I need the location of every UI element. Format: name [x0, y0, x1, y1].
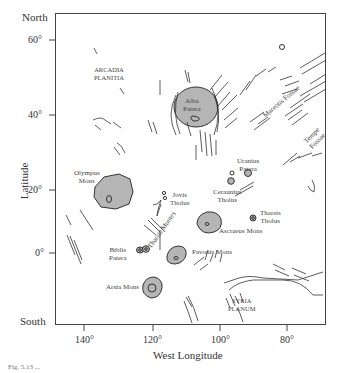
- north-label: North: [22, 11, 48, 23]
- alba-patera-label: AlbaPatera: [183, 98, 201, 113]
- y-axis-ticks: [49, 40, 55, 253]
- ascraeus-mons-label: Ascraeus Mons: [219, 228, 262, 236]
- small-crater: [280, 45, 285, 50]
- y-tick-40: 40°: [28, 109, 42, 120]
- tharsis-tholus-label: TharsisTholus: [260, 210, 281, 225]
- arcadia-planitia-label: ARCADIAPLANITIA: [94, 66, 124, 81]
- arsia-mons-label: Arsia Mons: [106, 284, 139, 292]
- figure-caption: Fig. 5.13 ...: [8, 364, 40, 372]
- ascraeus-mons-shape: [197, 212, 221, 233]
- uranius-patera-label: UraniusPatera: [237, 158, 259, 173]
- jovis-tholus-shape: [162, 191, 165, 194]
- arsia-mons-shape: [143, 277, 162, 298]
- tharsis-tholus-shape: [250, 215, 256, 221]
- y-tick-0: 0°: [35, 247, 44, 258]
- map-canvas: [0, 0, 340, 373]
- x-axis-ticks: [84, 325, 287, 331]
- jovis-tholus-label: JovisTholus: [170, 192, 189, 207]
- longitude-axis-title: West Longitude: [153, 349, 223, 361]
- pavonis-mons-label: Pavonis Mons: [192, 249, 232, 257]
- ceraunius-tholus-shape: [228, 178, 235, 185]
- pavonis-mons-shape: [167, 246, 186, 264]
- biblis-patera-label: BiblisPatera: [109, 247, 127, 262]
- x-tick-140: 140°: [75, 334, 94, 345]
- olympus-mons-label: OlympusMons: [74, 170, 100, 185]
- olympus-mons-shape: [94, 174, 133, 209]
- y-tick-60: 60°: [28, 34, 42, 45]
- ceraunius-tholus-label: CerauniusTholus: [213, 189, 241, 204]
- x-tick-100: 100°: [211, 334, 230, 345]
- syria-planum-label: SYRIAPLANUM: [228, 297, 255, 312]
- x-tick-80: 80°: [280, 334, 294, 345]
- latitude-axis-title: Latitude: [18, 151, 30, 211]
- y-tick-20: 20°: [28, 184, 42, 195]
- x-tick-120: 120°: [143, 334, 162, 345]
- south-label: South: [20, 315, 46, 327]
